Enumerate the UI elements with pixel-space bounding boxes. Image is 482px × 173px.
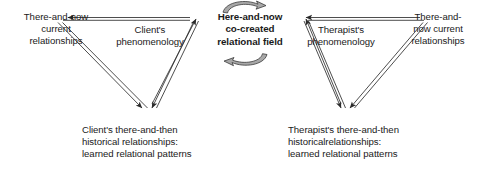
node-here-and-now-relational-field: Here-and-now co-created relational field: [198, 11, 302, 48]
curved-arrow-bottom-icon: [224, 54, 267, 66]
relational-field-diagram: There-and-now current relationships Clie…: [0, 0, 482, 173]
node-therapist-phenomenology: Therapist's phenomenology: [292, 24, 390, 48]
node-therapist-there-and-then: Therapist's there-and-then historicalrel…: [288, 124, 440, 161]
node-client-there-and-then: Client's there-and-then historical relat…: [82, 124, 230, 161]
node-client-phenomenology: Client's phenomenology: [104, 24, 196, 48]
node-right-current-relationships: There-and- now current relationships: [394, 11, 482, 48]
node-left-current-relationships: There-and-now current relationships: [2, 11, 110, 48]
